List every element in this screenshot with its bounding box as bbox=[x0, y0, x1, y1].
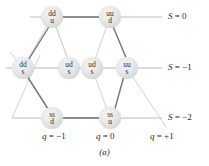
strangeness-label-minus-1: S = −1 bbox=[168, 62, 192, 72]
node-dd-u[interactable]: dd u bbox=[41, 6, 63, 28]
strangeness-operator: = bbox=[173, 11, 183, 21]
node-ss-d[interactable]: ss d bbox=[41, 107, 63, 129]
edge-lower-right bbox=[114, 76, 124, 112]
charge-label-minus-1: q = −1 bbox=[42, 131, 66, 141]
charge-value: 0 bbox=[110, 131, 115, 141]
strangeness-value: −2 bbox=[182, 112, 192, 122]
node-dd-s[interactable]: dd s bbox=[12, 57, 34, 79]
node-ud-s-right[interactable]: ud s bbox=[81, 57, 103, 79]
edge-lower-left bbox=[27, 76, 50, 112]
strangeness-value: 0 bbox=[182, 11, 187, 21]
strangeness-value: −1 bbox=[182, 62, 192, 72]
charge-operator: = bbox=[47, 131, 57, 141]
node-quark-bottom: s bbox=[68, 68, 71, 76]
charge-operator: = bbox=[101, 131, 111, 141]
node-ss-u[interactable]: ss u bbox=[99, 107, 121, 129]
node-quark-bottom: d bbox=[108, 17, 112, 25]
baryon-weight-diagram-figure: dd u uu d dd s ud s ud s uu s ss d ss u … bbox=[0, 0, 209, 166]
node-uu-d[interactable]: uu d bbox=[99, 6, 121, 28]
node-quark-bottom: s bbox=[22, 68, 25, 76]
charge-label-plus-1: q = +1 bbox=[150, 131, 174, 141]
node-quark-bottom: s bbox=[126, 68, 129, 76]
charge-operator: = bbox=[155, 131, 165, 141]
node-quark-bottom: u bbox=[108, 118, 112, 126]
edge-upper-right bbox=[112, 24, 127, 60]
node-quark-bottom: s bbox=[91, 68, 94, 76]
strangeness-operator: = bbox=[173, 112, 183, 122]
charge-label-zero: q = 0 bbox=[96, 131, 115, 141]
strangeness-operator: = bbox=[173, 62, 183, 72]
strangeness-label-0: S = 0 bbox=[168, 11, 187, 21]
figure-caption: (a) bbox=[0, 147, 209, 157]
charge-value: +1 bbox=[164, 131, 174, 141]
strangeness-label-minus-2: S = −2 bbox=[168, 112, 192, 122]
charge-value: −1 bbox=[56, 131, 66, 141]
node-ud-s-left[interactable]: ud s bbox=[58, 57, 80, 79]
node-quark-bottom: d bbox=[50, 118, 54, 126]
node-uu-s[interactable]: uu s bbox=[116, 57, 138, 79]
node-quark-bottom: u bbox=[50, 17, 54, 25]
